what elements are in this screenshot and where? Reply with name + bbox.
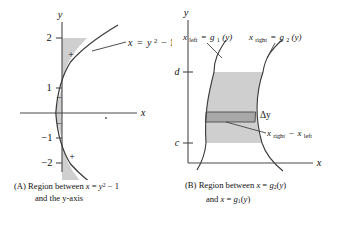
x-right-eq: =: [271, 32, 276, 42]
x-left-fn: g: [210, 32, 215, 42]
g2-label-leader: [267, 43, 275, 58]
curve-label-leader: [92, 42, 126, 51]
caption-b-expr1: x = g2(y): [256, 180, 286, 190]
y-tick-label-minus-2: −2: [41, 157, 52, 168]
width-sub-2: left: [304, 132, 313, 139]
y-axis-label-a: y: [57, 9, 63, 20]
width-var-2: x: [297, 128, 302, 138]
curve-eq-lhs: x: [127, 37, 133, 48]
region-between-curves: [206, 72, 263, 143]
x-right-fn: g: [280, 32, 285, 42]
y-tick-label-1: 1: [46, 82, 51, 93]
figure-root: 2 1 −1 −2 y x + − − + x = y 2 − 1 (A) Re…: [0, 0, 343, 229]
width-var-1: x: [266, 128, 271, 138]
delta-y-label: Δy: [260, 110, 271, 120]
caption-a-expr: x = y2 − 1: [86, 181, 119, 191]
width-sub-1: right: [273, 132, 285, 139]
stray-mark: [105, 117, 107, 119]
panel-b-plot: d c y x x left = g 1 (y) x right =: [171, 0, 343, 180]
sign-middle-minus-lower: −: [56, 118, 62, 129]
x-axis-label-b: x: [316, 157, 322, 168]
sign-upper-plus: +: [68, 49, 74, 60]
x-left-arg: (y): [222, 32, 232, 42]
caption-a: (A) Region between x = y2 − 1 and the y-…: [14, 180, 119, 204]
y-tick-label-d: d: [175, 66, 181, 77]
x-right-arg: (y): [292, 32, 302, 42]
x-left-sub: left: [189, 36, 198, 43]
caption-b-text: Region between: [199, 180, 255, 190]
caption-b-tag: (B): [185, 180, 196, 190]
x-right-sub: right: [255, 36, 267, 43]
y-tick-label-minus-1: −1: [41, 132, 52, 143]
shaded-region-b: [206, 72, 263, 143]
x-left-var: x: [182, 32, 187, 42]
curve-equation-label: x = y 2 − 1: [127, 34, 172, 48]
y-axis-label-b: y: [183, 7, 189, 18]
delta-y-strip: [205, 112, 255, 122]
label-x-right: x right = g 2 (y): [248, 32, 302, 44]
panel-b: d c y x x left = g 1 (y) x right =: [171, 0, 343, 229]
x-left-eq: =: [201, 32, 206, 42]
x-right-var: x: [248, 32, 253, 42]
curve-g2-right: [257, 40, 283, 171]
y-tick-label-2: 2: [46, 32, 51, 43]
caption-a-line2: and the y-axis: [14, 193, 119, 205]
caption-b-line2-wrap: and x = g1(y): [185, 194, 286, 208]
sign-middle-minus-upper: −: [56, 92, 62, 103]
caption-b: (B) Region between x = g2(y) and x = g1(…: [185, 180, 286, 207]
label-width-difference: x right − x left: [266, 128, 312, 140]
caption-a-text: Region between: [28, 181, 84, 191]
caption-a-tag: (A): [14, 181, 26, 191]
sign-lower-plus: +: [69, 151, 75, 162]
panel-a: 2 1 −1 −2 y x + − − + x = y 2 − 1 (A) Re…: [0, 0, 172, 229]
curve-eq-equals: =: [137, 37, 143, 48]
curve-eq-exponent: 2: [154, 37, 157, 44]
x-left-fn-sub: 1: [217, 36, 220, 43]
curve-eq-base: y: [146, 37, 152, 48]
x-axis-label-a: x: [140, 107, 146, 118]
caption-b-and: and: [206, 194, 218, 204]
region-upper-positive: [62, 38, 87, 88]
panel-a-plot: 2 1 −1 −2 y x + − − + x = y 2 − 1: [0, 0, 172, 180]
y-tick-label-c: c: [175, 137, 180, 148]
width-minus: −: [289, 128, 294, 138]
x-right-fn-sub: 2: [286, 36, 289, 43]
caption-b-expr2: x = g1(y): [221, 194, 251, 204]
